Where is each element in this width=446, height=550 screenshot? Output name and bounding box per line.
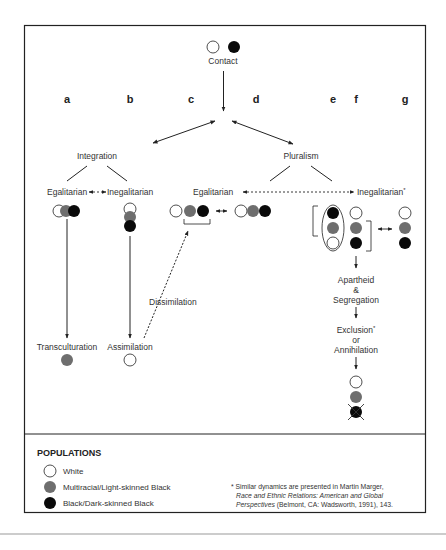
column-a: a	[64, 93, 71, 105]
black-circle-icon	[399, 237, 411, 249]
legend: POPULATIONS White Multiracial/Light-skin…	[37, 448, 172, 509]
multiracial-circle-icon	[247, 205, 259, 217]
white-circle-icon	[124, 354, 136, 366]
apartheid-label: Apartheid	[338, 275, 375, 285]
integration-label: Integration	[77, 151, 117, 161]
multiracial-circle-icon	[399, 222, 411, 234]
black-circle-icon	[259, 205, 271, 217]
left-bracket	[313, 206, 318, 236]
column-d-circles	[235, 205, 271, 217]
contact-label: Contact	[208, 56, 238, 66]
multiracial-circle-icon	[184, 205, 196, 217]
column-f: f	[354, 93, 358, 105]
pluralism-egal-line	[270, 166, 290, 181]
or-label: or	[352, 335, 360, 345]
black-circle-icon	[124, 220, 136, 232]
footnote: * Similar dynamics are presented in Mart…	[231, 483, 393, 509]
dissimilation-label: Dissimilation	[149, 297, 197, 307]
column-c: c	[188, 93, 194, 105]
white-circle-icon	[235, 205, 247, 217]
column-b-circles	[124, 203, 136, 232]
ampersand-label: &	[353, 285, 359, 295]
black-circle-icon	[327, 207, 339, 219]
annihilation-label: Annihilation	[334, 345, 378, 355]
legend-multiracial-swatch	[44, 481, 56, 493]
exclusion-label: Exclusion*	[337, 325, 376, 335]
column-e: e	[330, 93, 336, 105]
assimilation-label: Assimilation	[107, 342, 153, 352]
column-g-circles	[399, 207, 411, 249]
diagram-frame	[25, 26, 426, 513]
multiracial-circle-icon	[350, 222, 362, 234]
dissimilation-arrow	[144, 231, 188, 338]
multiracial-circle-icon	[61, 354, 73, 366]
pluralism-ineg-line	[311, 166, 332, 181]
integration-ineg-line	[107, 166, 127, 181]
integration-egal-line	[67, 166, 87, 181]
column-c-circles	[170, 205, 210, 224]
legend-multiracial-label: Multiracial/Light-skinned Black	[63, 483, 172, 492]
integration-inegalitarian-label: Inegalitarian	[107, 187, 154, 197]
annihilation-circles	[348, 376, 364, 420]
column-e-circles	[313, 205, 344, 251]
column-a-circles	[53, 205, 80, 217]
legend-black-label: Black/Dark-skinned Black	[63, 499, 155, 508]
pluralism-inegalitarian-label: Inegalitarian*	[357, 187, 406, 197]
multiracial-circle-icon	[327, 222, 339, 234]
white-circle-icon	[350, 207, 362, 219]
contact-node: Contact	[207, 41, 240, 66]
pluralism-arrow	[232, 121, 293, 144]
bracket	[184, 219, 210, 224]
white-circle-icon	[170, 205, 182, 217]
column-b: b	[127, 93, 134, 105]
legend-title: POPULATIONS	[37, 448, 101, 458]
black-circle-icon	[68, 205, 80, 217]
right-bracket	[366, 221, 371, 251]
multiracial-circle-icon	[350, 391, 362, 403]
footnote-line3: Perspectives (Belmont, CA: Wadsworth, 19…	[236, 501, 393, 509]
black-circle-icon	[197, 205, 209, 217]
column-g: g	[402, 93, 409, 105]
race-relations-diagram: Contact a b c d e f g Integration Egalit…	[0, 0, 446, 550]
integration-arrow	[153, 121, 215, 143]
legend-white-swatch	[44, 465, 56, 477]
pluralism-label: Pluralism	[284, 151, 319, 161]
legend-white-label: White	[63, 467, 84, 476]
transculturation-label: Transculturation	[37, 342, 98, 352]
white-circle-icon	[350, 376, 362, 388]
black-circle-icon	[350, 237, 362, 249]
legend-black-swatch	[44, 497, 56, 509]
white-circle-icon	[399, 207, 411, 219]
column-d: d	[253, 93, 260, 105]
segregation-label: Segregation	[333, 295, 379, 305]
integration-egalitarian-label: Egalitarian	[47, 187, 87, 197]
white-circle-icon	[207, 41, 219, 53]
footnote-line2: Race and Ethnic Relations: American and …	[236, 492, 384, 499]
column-f-circles	[350, 207, 371, 251]
white-circle-icon	[327, 237, 339, 249]
black-circle-icon	[228, 41, 240, 53]
pluralism-egalitarian-label: Egalitarian	[193, 187, 233, 197]
footnote-line1: * Similar dynamics are presented in Mart…	[231, 483, 384, 491]
